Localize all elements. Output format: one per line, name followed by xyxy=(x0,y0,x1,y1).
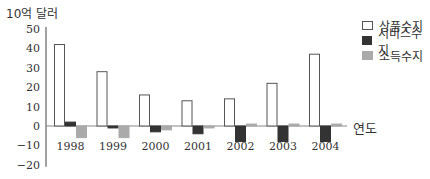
bar xyxy=(55,45,65,126)
bar xyxy=(193,126,203,134)
x-tick-label: 2003 xyxy=(269,140,297,153)
x-tick-label: 2002 xyxy=(227,140,255,153)
x-axis-label: 연도 xyxy=(353,118,377,137)
y-tick-label: 10 xyxy=(26,101,40,114)
bar xyxy=(140,95,150,126)
bar xyxy=(182,101,192,126)
bar xyxy=(77,126,87,138)
legend-item-income: 소득수지 xyxy=(362,48,430,63)
legend-item-services: 서비스수지 xyxy=(362,33,430,48)
bar xyxy=(310,54,320,126)
bar xyxy=(151,126,161,132)
bar xyxy=(66,122,76,126)
x-tick-label: 2004 xyxy=(312,140,340,153)
x-tick-label: 1999 xyxy=(99,140,127,153)
bar xyxy=(289,124,299,126)
bar xyxy=(119,126,129,138)
legend-swatch-services xyxy=(362,36,372,45)
bar xyxy=(108,126,118,128)
y-tick-label: 30 xyxy=(26,62,40,75)
bar xyxy=(162,126,172,130)
bar xyxy=(204,126,214,128)
y-tick-label: −10 xyxy=(17,139,40,152)
bar xyxy=(267,83,277,126)
bar xyxy=(247,124,257,126)
chart-container: 10억 달러 50403020100−10−201998199920002001… xyxy=(0,0,430,179)
legend: 상품수지 서비스수지 소득수지 xyxy=(362,18,430,63)
bar xyxy=(97,72,107,126)
bar xyxy=(332,124,342,126)
legend-label-income: 소득수지 xyxy=(379,47,423,64)
y-tick-label: −20 xyxy=(17,159,40,172)
x-tick-label: 2001 xyxy=(184,140,212,153)
x-tick-label: 1998 xyxy=(57,140,85,153)
y-tick-label: 0 xyxy=(33,120,40,133)
y-tick-label: 50 xyxy=(26,23,40,36)
x-tick-label: 2000 xyxy=(142,140,170,153)
y-tick-label: 20 xyxy=(26,81,40,94)
legend-swatch-goods xyxy=(362,21,373,30)
legend-swatch-income xyxy=(362,51,373,60)
y-tick-label: 40 xyxy=(26,42,40,55)
bar xyxy=(225,99,235,126)
